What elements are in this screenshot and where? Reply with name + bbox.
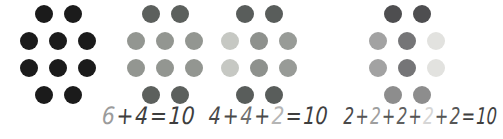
dot bbox=[156, 32, 174, 50]
dot-row bbox=[20, 59, 96, 77]
equation-token: = bbox=[285, 103, 303, 129]
equation-token: + bbox=[222, 103, 240, 129]
dot-row bbox=[127, 5, 203, 23]
dot bbox=[127, 32, 145, 50]
dot-row bbox=[20, 5, 96, 23]
dot bbox=[171, 5, 189, 23]
dot-row bbox=[20, 86, 96, 104]
dot bbox=[142, 5, 160, 23]
dot-row bbox=[20, 32, 96, 50]
equation-token: 2 bbox=[449, 104, 460, 129]
equation-2-plus-2-plus-2-plus-2-plus-2: 2+2+2+2+2=10 bbox=[342, 104, 498, 129]
equation-token: 6 bbox=[101, 103, 116, 129]
dot-row bbox=[127, 32, 203, 50]
dot-row bbox=[369, 86, 445, 104]
equation-token: 10 bbox=[303, 103, 329, 129]
dot bbox=[384, 5, 402, 23]
equation-token: + bbox=[355, 104, 370, 129]
dot-row bbox=[221, 32, 297, 50]
dot-row bbox=[221, 5, 297, 23]
dot bbox=[156, 59, 174, 77]
dot-group-four-plus-four-plus-two bbox=[221, 5, 297, 104]
dot bbox=[279, 32, 297, 50]
equation-token: + bbox=[116, 103, 135, 129]
dot bbox=[369, 32, 387, 50]
dot bbox=[265, 5, 283, 23]
equation-token: + bbox=[408, 104, 423, 129]
dot bbox=[413, 5, 431, 23]
equation-4-plus-4-plus-2: 4+4+2=10 bbox=[207, 103, 329, 129]
equation-token: = bbox=[149, 103, 168, 129]
dot bbox=[221, 32, 239, 50]
equation-token: 2 bbox=[271, 103, 285, 129]
equation-token: + bbox=[381, 104, 396, 129]
dot-group-five-twos bbox=[369, 5, 445, 104]
dot bbox=[185, 59, 203, 77]
dot bbox=[185, 32, 203, 50]
equation-token: = bbox=[461, 104, 476, 129]
equation-token: 10 bbox=[168, 103, 196, 129]
dot bbox=[369, 59, 387, 77]
dot bbox=[398, 32, 416, 50]
equation-token: 2 bbox=[423, 104, 434, 129]
dot bbox=[64, 5, 82, 23]
dot bbox=[413, 86, 431, 104]
dot bbox=[384, 86, 402, 104]
dot bbox=[78, 32, 96, 50]
dot bbox=[250, 59, 268, 77]
equation-token: 2 bbox=[343, 104, 354, 129]
dot-row bbox=[127, 59, 203, 77]
equation-token: 10 bbox=[476, 104, 498, 129]
dot-row bbox=[369, 59, 445, 77]
dot bbox=[20, 32, 38, 50]
equation-6-plus-4: 6+4=10 bbox=[100, 103, 196, 129]
dot-row bbox=[369, 32, 445, 50]
equation-token: + bbox=[253, 103, 271, 129]
dot bbox=[64, 86, 82, 104]
make-ten-dots-figure: 6+4=10 4+4+2=10 2+2+2+2+2=10 bbox=[0, 0, 503, 139]
dot bbox=[35, 86, 53, 104]
dot bbox=[221, 59, 239, 77]
dot-row bbox=[369, 5, 445, 23]
dot bbox=[20, 59, 38, 77]
dot bbox=[398, 59, 416, 77]
dot bbox=[49, 59, 67, 77]
equation-token: 4 bbox=[240, 103, 254, 129]
equation-token: 2 bbox=[396, 104, 407, 129]
dot-row bbox=[221, 59, 297, 77]
dot bbox=[279, 59, 297, 77]
dot-group-six-plus-four bbox=[127, 5, 203, 104]
equation-token: 4 bbox=[135, 103, 150, 129]
dot bbox=[49, 32, 67, 50]
dot bbox=[427, 32, 445, 50]
equation-token: 4 bbox=[208, 103, 222, 129]
dot bbox=[35, 5, 53, 23]
dot bbox=[236, 5, 254, 23]
equation-token: 2 bbox=[370, 104, 381, 129]
equation-token: + bbox=[434, 104, 449, 129]
dot-group-all-black bbox=[20, 5, 96, 104]
dot bbox=[127, 59, 145, 77]
dot bbox=[250, 32, 268, 50]
dot bbox=[427, 59, 445, 77]
dot bbox=[78, 59, 96, 77]
